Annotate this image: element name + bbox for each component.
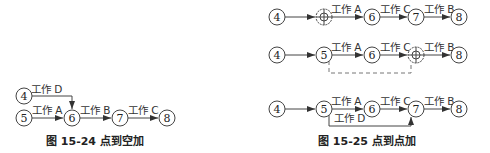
row-2: 工作 A 工作 C 工作 B 4 5 6 8 [269,41,467,73]
svg-text:6: 6 [369,103,376,116]
svg-text:8: 8 [164,112,171,125]
svg-text:8: 8 [456,49,463,62]
label-work-a: 工作 A [331,41,362,53]
node-7: 7 [112,110,128,126]
label-work-a: 工作 A [331,3,362,15]
node-8: 8 [159,110,175,126]
node-4: 4 [16,88,32,104]
svg-text:6: 6 [369,11,376,24]
label-work-a: 工作 A [32,104,63,116]
svg-text:7: 7 [413,11,420,24]
label-work-d: 工作 D [31,83,62,95]
label-work-b: 工作 B [80,104,111,116]
svg-text:7: 7 [413,103,420,116]
figure-15-24: 工作 D 工作 A 工作 B 工作 C 4 5 6 7 8 图 15-24 点到… [16,83,175,148]
caption-15-24: 图 15-24 点到空加 [46,134,144,148]
node-5: 5 [16,110,32,126]
svg-text:4: 4 [274,103,281,116]
row-3: 工作 A 工作 C 工作 B 工作 D 4 5 6 7 8 [269,95,467,126]
svg-text:5: 5 [21,112,28,125]
label-work-b: 工作 B [424,95,455,107]
svg-text:5: 5 [321,49,328,62]
svg-text:4: 4 [274,49,281,62]
caption-15-25: 图 15-25 点到点加 [318,134,416,148]
node-4: 4 [269,101,285,117]
label-work-c: 工作 C [128,104,159,116]
node-4: 4 [269,9,285,25]
svg-text:4: 4 [274,11,281,24]
row-1: 工作 A 工作 C 工作 B 4 6 7 8 [269,3,467,25]
node-6: 6 [364,47,380,63]
svg-text:7: 7 [117,112,124,125]
svg-text:8: 8 [456,103,463,116]
svg-text:5: 5 [321,103,328,116]
svg-text:6: 6 [369,49,376,62]
deleted-node-star-icon [408,47,424,63]
node-6: 6 [64,110,80,126]
label-work-c: 工作 C [380,95,411,107]
node-6: 6 [364,9,380,25]
node-5: 5 [316,47,332,63]
node-5: 5 [316,101,332,117]
label-work-b: 工作 B [424,3,455,15]
node-4: 4 [269,47,285,63]
node-8: 8 [451,101,467,117]
node-8: 8 [451,47,467,63]
network-diagrams: 工作 D 工作 A 工作 B 工作 C 4 5 6 7 8 图 15-24 点到… [0,0,490,153]
label-work-c: 工作 C [380,41,411,53]
node-7: 7 [408,9,424,25]
label-work-a: 工作 A [331,95,362,107]
node-6: 6 [364,101,380,117]
node-7: 7 [408,101,424,117]
label-work-d: 工作 D [334,112,365,124]
deleted-node-star-icon [316,9,332,25]
label-work-b: 工作 B [424,41,455,53]
svg-text:8: 8 [456,11,463,24]
figure-15-25: 工作 A 工作 C 工作 B 4 6 7 8 工作 A 工作 C 工作 B 4 [269,3,467,148]
label-work-c: 工作 C [380,3,411,15]
node-8: 8 [451,9,467,25]
svg-text:6: 6 [69,112,76,125]
svg-text:4: 4 [21,90,28,103]
